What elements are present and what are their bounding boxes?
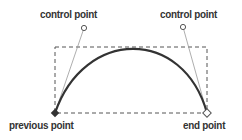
control-point-1-handle[interactable] bbox=[81, 25, 86, 30]
bezier-curve bbox=[55, 49, 207, 113]
bezier-curve-diagram: control point control point previous poi… bbox=[0, 0, 242, 140]
previous-point-label: previous point bbox=[9, 119, 74, 131]
end-point-label: end point bbox=[183, 119, 225, 131]
previous-point-marker[interactable] bbox=[51, 109, 59, 117]
control-point-2-label: control point bbox=[160, 8, 217, 20]
control-point-1-label: control point bbox=[40, 8, 97, 20]
bounding-box bbox=[55, 47, 207, 113]
end-point-marker[interactable] bbox=[203, 109, 211, 117]
control-point-2-handle[interactable] bbox=[180, 24, 185, 29]
